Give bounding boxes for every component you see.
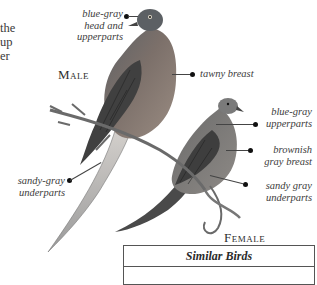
leader-dot bbox=[190, 72, 195, 77]
leader-dot bbox=[248, 148, 253, 153]
leader-line bbox=[226, 150, 248, 151]
label-female-underparts: sandy gray underparts bbox=[240, 180, 312, 203]
leader-line bbox=[172, 74, 190, 75]
similar-birds-table: Similar Birds bbox=[123, 245, 315, 285]
female-head bbox=[218, 98, 238, 114]
male-head bbox=[137, 9, 163, 31]
label-female-breast: brownish gray breast bbox=[246, 144, 312, 167]
male-title: Male bbox=[58, 67, 89, 83]
leader-line bbox=[216, 124, 254, 125]
leader-dot bbox=[243, 182, 248, 187]
leader-line bbox=[128, 16, 138, 17]
female-title: Female bbox=[224, 230, 265, 246]
leader-dot bbox=[253, 122, 258, 127]
label-male-head: blue-gray head and upperparts bbox=[68, 8, 123, 43]
label-male-breast: tawny breast bbox=[200, 68, 254, 80]
similar-birds-header: Similar Birds bbox=[124, 246, 314, 267]
label-male-underparts: sandy-gray underparts bbox=[5, 175, 65, 198]
